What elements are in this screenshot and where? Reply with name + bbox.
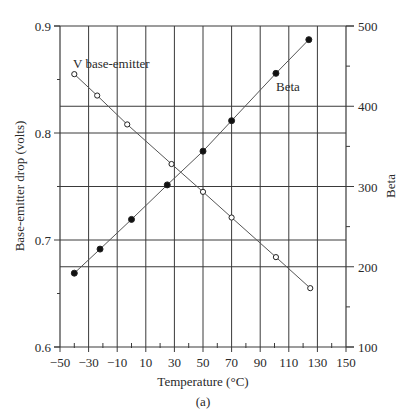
x-tick-label: 30 — [168, 355, 181, 370]
v-base-emitter-marker — [229, 215, 234, 220]
v-base-emitter-marker — [95, 93, 100, 98]
v-base-emitter-marker — [273, 255, 278, 260]
chart-caption: (a) — [196, 394, 210, 409]
v-base-emitter-marker — [308, 286, 313, 291]
beta-marker — [229, 118, 235, 124]
y-left-tick-label: 0.8 — [35, 126, 51, 141]
beta-marker — [200, 148, 206, 154]
beta-marker — [97, 246, 103, 252]
x-tick-label: 70 — [225, 355, 238, 370]
beta-marker — [306, 37, 312, 43]
x-tick-label: 50 — [197, 355, 210, 370]
x-axis-title: Temperature (°C) — [157, 374, 248, 389]
v-base-emitter-marker — [125, 122, 130, 127]
grid-lines — [60, 26, 346, 347]
v-base-emitter-marker — [72, 72, 77, 77]
y-right-tick-label: 300 — [358, 180, 378, 195]
y-right-axis-title: Beta — [383, 174, 398, 198]
y-left-axis-title: Base-emitter drop (volts) — [12, 121, 27, 252]
beta-marker — [273, 70, 279, 76]
y-left-tick-label: 0.9 — [35, 19, 51, 34]
x-tick-label: −30 — [78, 355, 98, 370]
x-tick-label: 150 — [336, 355, 356, 370]
beta-marker — [129, 216, 135, 222]
beta-series-label: Beta — [276, 79, 300, 94]
v-base-emitter-label: V base-emitter — [73, 56, 150, 71]
y-right-tick-label: 200 — [358, 260, 378, 275]
v-base-emitter-marker — [200, 189, 205, 194]
x-tick-label: −50 — [50, 355, 70, 370]
data-series — [71, 37, 313, 291]
y-right-tick-label: 100 — [358, 340, 378, 355]
x-tick-label: 110 — [279, 355, 298, 370]
y-left-tick-label: 0.6 — [35, 340, 52, 355]
beta-marker — [164, 182, 170, 188]
y-left-tick-label: 0.7 — [35, 233, 52, 248]
v-base-emitter-marker — [169, 161, 174, 166]
x-tick-label: −10 — [107, 355, 127, 370]
x-tick-label: 130 — [308, 355, 328, 370]
dual-axis-line-chart: −50−30−1010305070901101301500.60.70.80.9… — [0, 0, 405, 413]
y-right-tick-label: 500 — [358, 19, 378, 34]
x-tick-label: 10 — [139, 355, 152, 370]
beta-marker — [71, 270, 77, 276]
x-tick-label: 90 — [254, 355, 267, 370]
y-right-tick-label: 400 — [358, 99, 378, 114]
